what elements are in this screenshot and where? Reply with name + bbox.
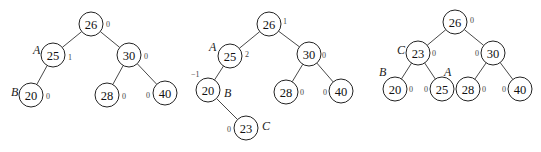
node-value: 26 xyxy=(85,18,98,32)
edge-23-25 xyxy=(425,63,436,79)
tree-node-40: 400 xyxy=(323,79,353,103)
balance-factor: −1 xyxy=(191,70,200,79)
tree-2: 261252A30020−1B280400230C xyxy=(191,12,353,140)
node-value: 25 xyxy=(436,83,449,97)
node-label-b: B xyxy=(11,85,19,99)
node-value: 28 xyxy=(101,89,114,103)
edge-26-23 xyxy=(427,30,446,46)
avl-rotation-diagram: 260251A300200B280400261252A30020−1B28040… xyxy=(0,0,541,152)
balance-factor: 0 xyxy=(122,92,126,101)
node-value: 28 xyxy=(462,83,475,97)
tree-node-23: 230C xyxy=(397,41,436,65)
tree-3: 260230C300200B250A280400 xyxy=(379,10,532,101)
node-label-a: A xyxy=(32,43,41,57)
edge-30-40 xyxy=(137,64,156,85)
balance-factor: 0 xyxy=(300,88,304,97)
node-label-a: A xyxy=(443,65,452,79)
tree-node-26: 260 xyxy=(443,10,474,34)
edge-26-30 xyxy=(100,32,119,48)
balance-factor: 0 xyxy=(502,85,506,94)
tree-node-30: 300 xyxy=(117,43,148,67)
tree-node-40: 400 xyxy=(146,81,177,105)
tree-node-28: 280 xyxy=(274,80,304,104)
tree-node-20: 200B xyxy=(11,83,50,107)
edge-26-30 xyxy=(279,31,300,47)
balance-factor: 0 xyxy=(432,49,436,58)
node-value: 40 xyxy=(159,87,172,101)
balance-factor: 0 xyxy=(409,85,413,94)
nodes-layer: 260251A300200B280400261252A30020−1B28040… xyxy=(11,10,532,140)
balance-factor: 0 xyxy=(106,20,110,29)
node-value: 30 xyxy=(303,48,316,62)
edge-30-40 xyxy=(500,63,513,80)
edge-30-28 xyxy=(475,63,486,79)
node-label-b: B xyxy=(224,86,232,100)
tree-node-25: 252A xyxy=(208,40,249,68)
balance-factor: 0 xyxy=(227,125,231,134)
balance-factor: 0 xyxy=(323,88,327,97)
node-label-c: C xyxy=(262,119,271,133)
balance-factor: 0 xyxy=(144,52,148,61)
node-label-c: C xyxy=(397,43,406,57)
tree-node-20: 20−1B xyxy=(191,70,232,103)
node-value: 28 xyxy=(280,86,293,100)
balance-factor: 0 xyxy=(146,91,150,100)
tree-node-20: 200B xyxy=(379,65,413,101)
edge-25-20 xyxy=(37,66,47,85)
balance-factor: 0 xyxy=(482,85,486,94)
edge-30-28 xyxy=(113,66,123,85)
node-value: 25 xyxy=(224,50,237,64)
balance-factor: 1 xyxy=(68,53,72,62)
tree-1: 260251A300200B280400 xyxy=(11,12,177,107)
balance-factor: 0 xyxy=(475,49,479,58)
node-value: 40 xyxy=(514,83,527,97)
node-value: 20 xyxy=(25,89,38,103)
edge-20-23 xyxy=(216,98,237,119)
edge-26-30 xyxy=(464,30,483,46)
tree-node-30: 300 xyxy=(475,41,505,65)
node-value: 30 xyxy=(123,49,136,63)
tree-node-40: 400 xyxy=(502,77,532,101)
node-value: 26 xyxy=(449,16,462,30)
edge-25-20 xyxy=(215,66,224,80)
node-label-a: A xyxy=(208,40,217,54)
tree-node-30: 300 xyxy=(297,42,326,66)
node-value: 30 xyxy=(487,47,500,61)
edge-26-25 xyxy=(239,32,259,49)
node-value: 20 xyxy=(202,84,215,98)
tree-node-25: 250A xyxy=(424,65,454,101)
balance-factor: 0 xyxy=(470,16,474,25)
balance-factor: 0 xyxy=(46,92,50,101)
node-value: 26 xyxy=(263,18,276,32)
node-value: 23 xyxy=(412,47,425,61)
tree-node-28: 280 xyxy=(95,83,126,107)
node-value: 23 xyxy=(240,122,253,136)
balance-factor: 2 xyxy=(245,50,249,59)
node-label-b: B xyxy=(379,65,387,79)
edge-30-28 xyxy=(292,64,303,81)
tree-node-26: 261 xyxy=(257,12,287,36)
balance-factor: 0 xyxy=(424,85,428,94)
node-value: 25 xyxy=(47,49,60,63)
tree-node-28: 280 xyxy=(456,77,486,101)
tree-node-26: 260 xyxy=(79,12,110,36)
edge-26-25 xyxy=(62,32,81,48)
node-value: 40 xyxy=(335,85,348,99)
tree-node-23: 230C xyxy=(227,116,271,140)
edge-30-40 xyxy=(317,63,333,82)
balance-factor: 0 xyxy=(322,51,326,60)
tree-node-25: 251A xyxy=(32,43,72,67)
edge-23-20 xyxy=(401,63,411,79)
balance-factor: 1 xyxy=(283,17,287,26)
node-value: 20 xyxy=(389,83,402,97)
